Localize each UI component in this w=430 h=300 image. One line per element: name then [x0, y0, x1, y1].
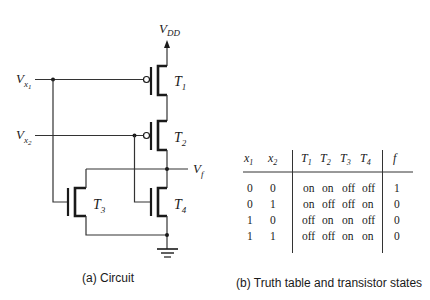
transistor-t2: T2 — [144, 121, 187, 150]
svg-text:T4: T4 — [360, 151, 371, 167]
transistor-t3: T3 — [68, 169, 167, 235]
svg-text:off: off — [322, 198, 335, 210]
svg-text:T1: T1 — [301, 151, 312, 167]
svg-text:on: on — [322, 182, 334, 194]
t2-label: T2 — [174, 130, 187, 148]
input-vx1: Vx1 — [16, 71, 144, 202]
circuit-diagram: VDD T1 T2 Vf Vx1 — [16, 21, 205, 285]
table-row: 1 1 off off on on 0 — [247, 230, 400, 242]
svg-text:off: off — [302, 214, 315, 226]
inverter-bubble-icon — [144, 77, 150, 83]
t4-label: T4 — [174, 197, 187, 215]
vdd-supply: VDD — [159, 21, 180, 66]
svg-text:x2: x2 — [267, 151, 277, 167]
svg-text:T3: T3 — [340, 151, 351, 167]
svg-text:on: on — [342, 230, 354, 242]
input-vx2: Vx2 — [16, 127, 150, 202]
arrow-up-icon — [164, 40, 170, 48]
svg-text:f: f — [393, 151, 398, 165]
svg-text:1: 1 — [394, 182, 400, 194]
svg-text:0: 0 — [394, 214, 400, 226]
svg-text:1: 1 — [270, 198, 276, 210]
svg-text:x1: x1 — [243, 151, 253, 167]
inverter-bubble-icon — [144, 133, 150, 139]
svg-text:1: 1 — [247, 230, 253, 242]
svg-text:on: on — [362, 230, 374, 242]
vx1-label: Vx1 — [16, 71, 31, 91]
table-row: 1 0 off on on off 0 — [247, 214, 400, 226]
svg-text:off: off — [342, 182, 355, 194]
svg-text:off: off — [362, 182, 375, 194]
svg-text:0: 0 — [394, 198, 400, 210]
svg-text:off: off — [362, 214, 375, 226]
table-row: 0 0 on on off off 1 — [247, 182, 400, 194]
truth-table: x1 x2 T1 T2 T3 T4 f 0 0 on on off off 1 … — [236, 150, 422, 290]
svg-text:on: on — [342, 214, 354, 226]
transistor-t1: T1 — [144, 66, 187, 95]
svg-text:1: 1 — [270, 230, 276, 242]
table-row: 0 1 on off off on 0 — [247, 198, 400, 210]
svg-text:off: off — [302, 230, 315, 242]
vdd-label: VDD — [159, 21, 180, 38]
table-header: x1 x2 T1 T2 T3 T4 f — [243, 151, 398, 167]
svg-text:off: off — [342, 198, 355, 210]
svg-text:on: on — [362, 198, 374, 210]
t3-label: T3 — [93, 197, 106, 215]
output-vf: Vf — [86, 161, 205, 179]
svg-text:0: 0 — [270, 182, 276, 194]
junction-dot — [165, 167, 169, 171]
svg-text:off: off — [322, 230, 335, 242]
svg-text:0: 0 — [247, 198, 253, 210]
nor-gate-figure: VDD T1 T2 Vf Vx1 — [0, 0, 430, 300]
svg-text:on: on — [303, 182, 315, 194]
table-caption: (b) Truth table and transistor states — [236, 276, 422, 290]
svg-text:0: 0 — [247, 182, 253, 194]
svg-text:1: 1 — [247, 214, 253, 226]
circuit-caption: (a) Circuit — [82, 271, 135, 285]
svg-text:on: on — [303, 198, 315, 210]
svg-text:T2: T2 — [320, 151, 331, 167]
t1-label: T1 — [174, 74, 186, 92]
transistor-t4: T4 — [151, 188, 187, 249]
vx2-label: Vx2 — [16, 127, 32, 147]
svg-text:0: 0 — [270, 214, 276, 226]
svg-text:0: 0 — [394, 230, 400, 242]
vf-label: Vf — [193, 161, 205, 179]
svg-text:on: on — [322, 214, 334, 226]
